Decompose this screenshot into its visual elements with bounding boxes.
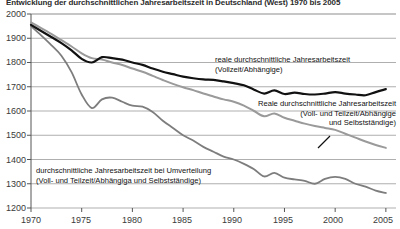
annotation-umverteilung: durchschnittliche Jahresarbeitszeit bei … (36, 166, 211, 185)
series-line (31, 22, 386, 147)
annotation-leader-line (318, 136, 330, 148)
annotation-vollteilzeit-line1: Reale durchschnittliche Jahresarbeitszei… (228, 99, 396, 109)
annotation-vollzeit-line2: (Vollzeit/Abhängige) (215, 65, 350, 75)
annotation-umverteilung-line2: (Voll- und Teilzeit/Abhängiga und Selbst… (36, 176, 211, 186)
chart-container: Entwicklung der durchschnittlichen Jahre… (0, 0, 400, 229)
annotation-vollzeit: reale durchschnittliche Jahresarbeitszei… (215, 55, 350, 74)
annotation-umverteilung-line1: durchschnittliche Jahresarbeitszeit bei … (36, 166, 211, 176)
annotation-vollteilzeit: Reale durchschnittliche Jahresarbeitszei… (228, 99, 396, 128)
annotation-vollteilzeit-line3: und Selbstständige) (228, 118, 396, 128)
annotation-vollzeit-line1: reale durchschnittliche Jahresarbeitszei… (215, 55, 350, 65)
annotation-vollteilzeit-line2: (Voll- und Teilzeit/Abhängige (228, 109, 396, 119)
